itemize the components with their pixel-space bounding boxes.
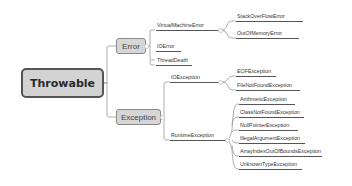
node-threaddeath-label: ThreadDeath <box>157 57 188 63</box>
node-unknowntypeexception[interactable]: UnknownTypeException <box>239 161 302 170</box>
node-ioexception[interactable]: IOException <box>170 74 221 83</box>
node-illegalargumentexception[interactable]: IllegalArgumentException <box>239 135 305 144</box>
node-unknowntypeexception-label: UnknownTypeException <box>240 161 297 167</box>
node-eofexception-label: EOFException <box>237 68 271 74</box>
node-ioexception-label: IOException <box>171 74 200 80</box>
node-eofexception[interactable]: EOFException <box>236 68 276 77</box>
node-runtimeexception[interactable]: RuntimeException <box>170 132 226 141</box>
mind-map-canvas: Throwable Error VirtualMachineError Stac… <box>0 0 352 186</box>
node-ioerror[interactable]: IOError <box>156 43 181 52</box>
node-illegalargumentexception-label: IllegalArgumentException <box>240 135 300 141</box>
node-stackoverflowerror[interactable]: StackOverFlowError <box>236 13 303 22</box>
node-virtualmachineerror[interactable]: VirtualMachineError <box>156 22 222 31</box>
node-nullpointerexception[interactable]: NullPointerException <box>239 122 298 131</box>
node-runtimeexception-label: RuntimeException <box>171 132 214 138</box>
node-error[interactable]: Error <box>116 38 146 54</box>
node-exception[interactable]: Exception <box>116 109 161 125</box>
node-outofmemoryerror[interactable]: OutOfMemoryError <box>236 30 299 39</box>
node-classnotfoundexception-label: ClassNotFoundException <box>240 109 300 115</box>
node-ioerror-label: IOError <box>157 43 174 49</box>
node-virtualmachineerror-label: VirtualMachineError <box>157 22 204 28</box>
node-nullpointerexception-label: NullPointerException <box>240 122 289 128</box>
node-throwable-label: Throwable <box>30 77 95 90</box>
node-arithmeticexception-label: ArithmeticException <box>240 96 287 102</box>
node-throwable[interactable]: Throwable <box>21 68 104 98</box>
node-filenotfoundexception-label: FileNotFoundException <box>237 82 292 88</box>
collapse-toggle-exception[interactable] <box>160 115 165 120</box>
node-threaddeath[interactable]: ThreadDeath <box>156 57 192 66</box>
node-outofmemoryerror-label: OutOfMemoryError <box>237 30 282 36</box>
node-classnotfoundexception[interactable]: ClassNotFoundException <box>239 109 304 118</box>
node-arrayindexoutofboundsexception-label: ArrayIndexOutOfBoundsException <box>240 148 321 154</box>
node-stackoverflowerror-label: StackOverFlowError <box>237 13 285 19</box>
collapse-toggle-virtualmachineerror[interactable] <box>218 28 223 33</box>
collapse-toggle-runtimeexception[interactable] <box>225 138 230 143</box>
collapse-toggle-error[interactable] <box>144 44 149 49</box>
node-error-label: Error <box>122 42 140 51</box>
collapse-toggle-ioexception[interactable] <box>218 80 223 85</box>
node-arithmeticexception[interactable]: ArithmeticException <box>239 96 295 105</box>
node-filenotfoundexception[interactable]: FileNotFoundException <box>236 82 300 91</box>
node-arrayindexoutofboundsexception[interactable]: ArrayIndexOutOfBoundsException <box>239 148 322 157</box>
node-exception-label: Exception <box>121 113 156 122</box>
